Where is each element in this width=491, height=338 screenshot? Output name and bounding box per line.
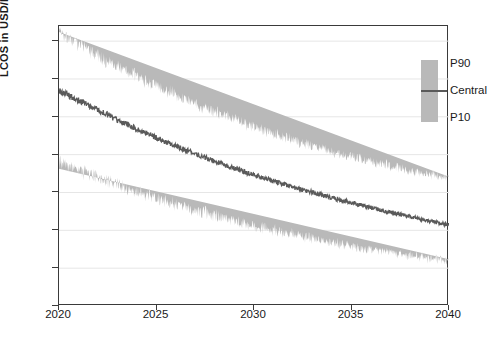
uncertainty-band-p10-p90 — [59, 27, 449, 265]
legend: P90 Central P10 — [421, 60, 491, 122]
legend-central-line-swatch — [421, 90, 447, 92]
plot-canvas — [59, 26, 449, 306]
gridlines — [59, 41, 449, 268]
legend-label-central: Central — [450, 84, 487, 96]
legend-label-p90: P90 — [450, 57, 470, 69]
y-axis-title: LCOS in USD/MWh — [0, 0, 10, 96]
plot-area: P90 Central P10 — [58, 25, 448, 305]
legend-label-p10: P10 — [450, 111, 470, 123]
